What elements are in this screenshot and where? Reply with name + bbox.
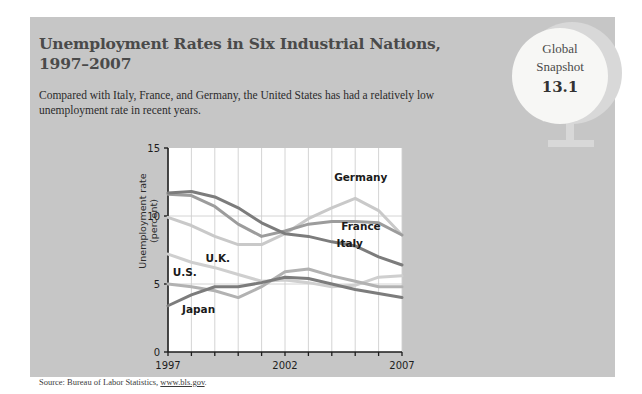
page-title: Unemployment Rates in Six Industrial Nat… — [39, 34, 459, 74]
source-note: Source: Bureau of Labor Statistics, www.… — [39, 377, 207, 387]
source-link[interactable]: www.bls.gov — [160, 377, 204, 387]
source-prefix: Source: Bureau of Labor Statistics, — [39, 377, 160, 387]
series-label: Japan — [181, 303, 215, 315]
badge-number: 13.1 — [512, 77, 608, 97]
line-chart-svg: 051015199720022007GermanyFranceItalyU.K.… — [125, 138, 425, 373]
badge-line1: Global — [542, 41, 577, 56]
y-tick-label: 0 — [154, 347, 160, 358]
series-label: U.S. — [173, 266, 197, 278]
global-snapshot-badge: Global Snapshot 13.1 — [504, 14, 636, 146]
page-subtitle: Compared with Italy, France, and Germany… — [39, 88, 439, 118]
x-tick-label: 1997 — [155, 360, 180, 371]
x-tick-label: 2002 — [272, 360, 297, 371]
globe-base-icon — [548, 140, 594, 147]
source-suffix: . — [205, 377, 207, 387]
series-label: Italy — [336, 237, 363, 249]
series-label: France — [341, 220, 381, 232]
series-label: U.K. — [205, 252, 230, 264]
badge-line2: Snapshot — [536, 59, 584, 74]
screenshot-root: Unemployment Rates in Six Industrial Nat… — [0, 0, 642, 394]
badge-text: Global Snapshot 13.1 — [512, 40, 608, 97]
y-axis-label: Unemployment rate (percent) — [137, 156, 159, 286]
chart: Unemployment rate (percent) 051015199720… — [125, 138, 425, 373]
x-tick-label: 2007 — [389, 360, 414, 371]
y-tick-label: 15 — [147, 143, 160, 154]
series-label: Germany — [334, 171, 387, 183]
